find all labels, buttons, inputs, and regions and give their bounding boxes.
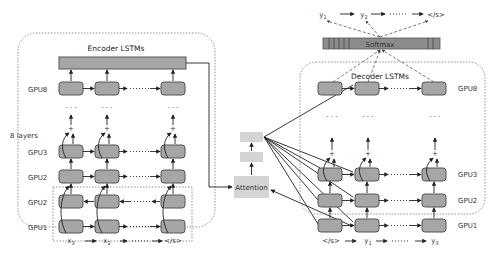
encoder-lstm-cell <box>161 220 185 233</box>
decoder-gpu-label: GPU2 <box>458 197 477 205</box>
encoder-gpu-label: GPU2 <box>28 174 47 182</box>
decoder-group: Decoder LSTMs GPU8 · · · · · · · · · + +… <box>300 62 485 246</box>
layers-label: 8 layers <box>10 132 38 140</box>
decoder-lstm-cell <box>422 219 446 232</box>
encoder-gpu-label: GPU3 <box>28 149 47 157</box>
decoder-lstm-cell <box>318 194 342 207</box>
encoder-group: Encoder LSTMs GPU8 · · · · · · · · · + +… <box>10 33 215 246</box>
encoder-gpu-label: GPU1 <box>28 224 47 232</box>
encoder-lstm-cell <box>95 82 119 95</box>
svg-text:+: + <box>170 125 176 133</box>
attention-label: Attention <box>235 184 267 192</box>
decoder-lstm-cell <box>355 194 379 207</box>
decoder-input: y3 <box>431 237 438 246</box>
ellipsis: · · · <box>429 113 440 121</box>
decoder-title: Decoder LSTMs <box>351 72 409 81</box>
decoder-gpu-label: GPU1 <box>458 222 477 230</box>
svg-text:+: + <box>329 150 335 158</box>
encoder-lstm-cell <box>59 170 83 183</box>
ellipsis: · · · <box>167 104 178 112</box>
attention-context-top <box>240 132 263 142</box>
encoder-lstm-cell <box>95 170 119 183</box>
encoder-lstm-cell <box>59 220 83 233</box>
encoder-gpu-label: GPU8 <box>28 86 47 94</box>
decoder-gpu-label: GPU3 <box>458 171 477 179</box>
ellipsis: · · · <box>101 104 112 112</box>
svg-text:+: + <box>104 125 110 133</box>
encoder-top-bar <box>59 57 186 69</box>
decoder-lstm-cell <box>422 82 446 95</box>
svg-text:+: + <box>68 125 74 133</box>
ellipsis: · · · <box>65 104 76 112</box>
ellipsis: · · · <box>362 113 373 121</box>
attention-context-mid <box>240 152 263 162</box>
encoder-lstm-cell <box>95 220 119 233</box>
decoder-lstm-cell <box>355 219 379 232</box>
encoder-lstm-cell <box>59 82 83 95</box>
decoder-gpu-label: GPU8 <box>458 85 477 93</box>
decoder-input: y1 <box>364 237 371 246</box>
decoder-lstm-cell <box>355 82 379 95</box>
encoder-lstm-cell <box>161 82 185 95</box>
softmax-label: Softmax <box>365 41 394 49</box>
decoder-lstm-cell <box>318 82 342 95</box>
decoder-input: </s> <box>322 237 340 245</box>
decoder-lstm-cell <box>318 219 342 232</box>
decoder-lstm-cell <box>422 194 446 207</box>
encoder-input: x3 <box>67 237 74 246</box>
svg-text:+: + <box>365 150 371 158</box>
output-token: y1 <box>319 11 326 20</box>
svg-text:+: + <box>432 150 438 158</box>
encoder-to-attention-arrow <box>186 63 232 187</box>
encoder-title: Encoder LSTMs <box>88 44 145 53</box>
output-token: y2 <box>360 11 367 20</box>
encoder-input: </s> <box>164 237 182 245</box>
decoder-lstm-cell <box>355 168 379 181</box>
encoder-lstm-cell <box>161 170 185 183</box>
decoder-lstm-cell <box>318 168 342 181</box>
output-token: </s> <box>427 11 445 19</box>
encoder-gpu-label: GPU2 <box>28 199 47 207</box>
seq2seq-diagram: Encoder LSTMs GPU8 · · · · · · · · · + +… <box>0 0 492 270</box>
decoder-lstm-cell <box>422 168 446 181</box>
ellipsis: · · · <box>326 113 337 121</box>
encoder-input: x2 <box>103 237 110 246</box>
